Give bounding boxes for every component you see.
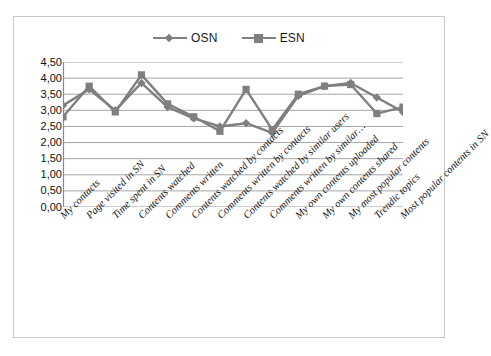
data-point-marker-square[interactable] [399, 104, 403, 111]
data-point-marker-square[interactable] [295, 91, 302, 98]
data-point-marker-square[interactable] [242, 86, 249, 93]
legend-entry-osn[interactable]: OSN [153, 31, 218, 45]
legend-swatch-square-icon [242, 32, 276, 44]
data-point-marker-square[interactable] [138, 71, 145, 78]
legend-swatch-diamond-icon [153, 32, 187, 44]
y-tick-label: 1,50 [41, 153, 62, 164]
data-point-marker-square[interactable] [347, 81, 354, 88]
data-point-marker-square[interactable] [112, 108, 119, 115]
legend-entry-esn[interactable]: ESN [242, 31, 305, 45]
y-tick-label: 4,50 [41, 57, 62, 68]
legend-label-osn: OSN [191, 31, 218, 45]
y-tick-label: 4,00 [41, 73, 62, 84]
data-point-marker-square[interactable] [216, 128, 223, 135]
data-point-marker-square[interactable] [321, 83, 328, 90]
data-point-marker-square[interactable] [373, 110, 380, 117]
y-tick-label: 1,00 [41, 169, 62, 180]
data-point-marker-square[interactable] [164, 100, 171, 107]
y-tick-label: 3,00 [41, 105, 62, 116]
y-tick-label: 3,50 [41, 89, 62, 100]
chart-legend: OSN ESN [14, 31, 444, 45]
y-axis-tick-labels: 0,000,501,001,502,002,503,003,504,004,50 [30, 56, 62, 213]
legend-label-esn: ESN [280, 31, 305, 45]
data-point-marker-square[interactable] [63, 113, 67, 120]
data-point-marker-square[interactable] [86, 83, 93, 90]
y-tick-label: 0,50 [41, 185, 62, 196]
data-point-marker-square[interactable] [190, 113, 197, 120]
y-tick-label: 2,50 [41, 121, 62, 132]
y-tick-label: 2,00 [41, 137, 62, 148]
